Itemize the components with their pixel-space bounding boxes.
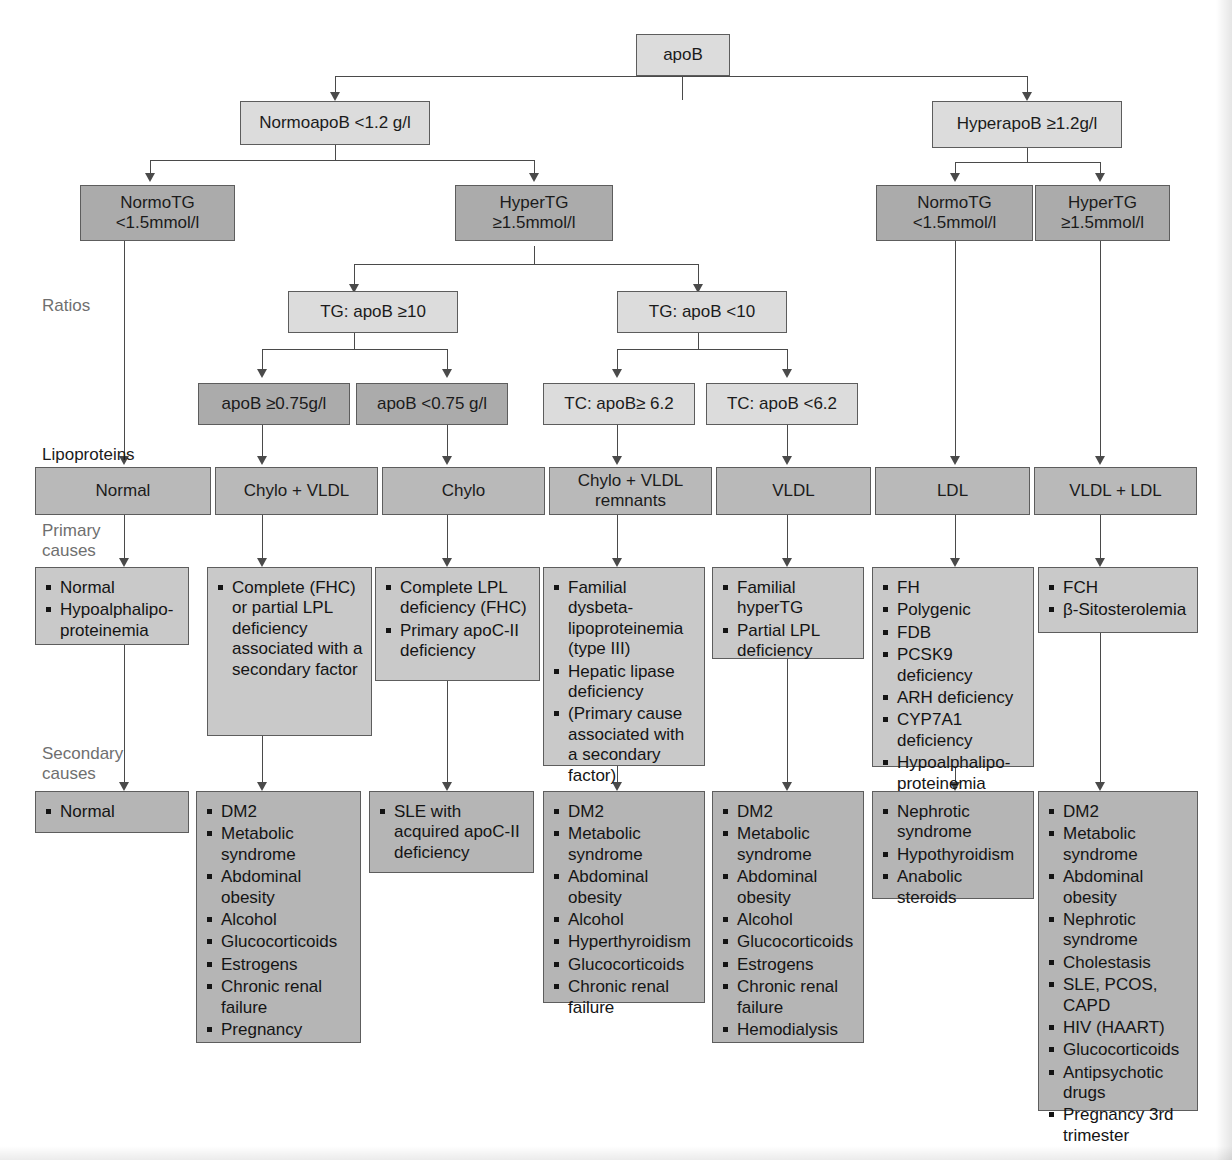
list-item: Metabolic syndrome bbox=[207, 824, 352, 865]
connector-ldl-to-primary bbox=[955, 515, 956, 560]
list-item: HIV (HAART) bbox=[1049, 1018, 1189, 1038]
node-tg-apob-lt10[interactable]: TG: apoB <10 bbox=[617, 291, 787, 333]
connector-remnants-to-primary bbox=[617, 515, 618, 560]
secondary-causes-vldl[interactable]: DM2Metabolic syndromeAbdominal obesityAl… bbox=[712, 791, 864, 1043]
primary-causes-vldl[interactable]: Familial hyperTGPartial LPL deficiency bbox=[712, 567, 864, 659]
arrow-to-lipo-remnants bbox=[612, 456, 622, 465]
list-item: Abdominal obesity bbox=[1049, 867, 1189, 908]
list-item: PCSK9 deficiency bbox=[883, 645, 1025, 686]
node-lipo-chylo-vldl-remnants[interactable]: Chylo + VLDL remnants bbox=[549, 467, 712, 515]
list-item: DM2 bbox=[207, 802, 352, 822]
arrow-to-hyperapob bbox=[1022, 92, 1032, 101]
primary-causes-chylo-vldl[interactable]: Complete (FHC) or partial LPL deficiency… bbox=[207, 567, 372, 736]
primary-list-5: Familial hyperTGPartial LPL deficiency bbox=[723, 578, 855, 662]
arrow-primary-7 bbox=[1095, 558, 1105, 567]
arrow-to-lipo-chylovldl bbox=[257, 456, 267, 465]
arrow-secondary-3 bbox=[442, 782, 452, 791]
list-item: Nephrotic syndrome bbox=[1049, 910, 1189, 951]
primary-list-1: NormalHypoalphalipo-proteinemia bbox=[46, 578, 180, 641]
node-normoapob[interactable]: NormoapoB <1.2 g/l bbox=[240, 101, 430, 145]
list-item: CYP7A1 deficiency bbox=[883, 710, 1025, 751]
secondary-causes-ldl[interactable]: Nephrotic syndromeHypothyroidismAnabolic… bbox=[872, 791, 1034, 899]
list-item: DM2 bbox=[554, 802, 696, 822]
connector-normotg1-to-normal bbox=[124, 241, 125, 458]
arrow-to-hypertg-1 bbox=[529, 173, 539, 182]
list-item: Chronic renal failure bbox=[207, 977, 352, 1018]
list-item: Pregnancy bbox=[207, 1020, 352, 1040]
node-hyperapob[interactable]: HyperapoB ≥1.2g/l bbox=[932, 101, 1122, 148]
node-normotg-left[interactable]: NormoTG <1.5mmol/l bbox=[80, 185, 235, 241]
primary-list-2: Complete (FHC) or partial LPL deficiency… bbox=[218, 578, 363, 680]
secondary-causes-vldl-ldl[interactable]: DM2Metabolic syndromeAbdominal obesityNe… bbox=[1038, 791, 1198, 1111]
secondary-causes-remnants[interactable]: DM2Metabolic syndromeAbdominal obesityAl… bbox=[543, 791, 705, 1003]
connector-primary1-to-secondary bbox=[124, 645, 125, 784]
secondary-list-2: DM2Metabolic syndromeAbdominal obesityAl… bbox=[207, 802, 352, 1040]
list-item: Glucocorticoids bbox=[723, 932, 855, 952]
connector-hypertg2-to-vldlldl bbox=[1100, 241, 1101, 458]
list-item: Abdominal obesity bbox=[554, 867, 696, 908]
node-apob-root[interactable]: apoB bbox=[636, 34, 730, 76]
primary-causes-vldl-ldl[interactable]: FCHβ-Sitosterolemia bbox=[1038, 567, 1198, 633]
list-item: Anabolic steroids bbox=[883, 867, 1025, 908]
connector-ge10-right bbox=[447, 349, 448, 371]
connector-primary2-to-secondary bbox=[262, 736, 263, 784]
node-tc-apob-ge-62[interactable]: TC: apoB≥ 6.2 bbox=[543, 383, 695, 425]
list-item: Glucocorticoids bbox=[1049, 1040, 1189, 1060]
row-label-ratios: Ratios bbox=[42, 296, 90, 316]
node-tg-apob-ge10[interactable]: TG: apoB ≥10 bbox=[288, 291, 458, 333]
connector-lt10-right bbox=[787, 349, 788, 371]
connector-lt10-stem bbox=[698, 333, 699, 349]
primary-list-6: FHPolygenicFDBPCSK9 deficiencyARH defici… bbox=[883, 578, 1025, 794]
node-lipo-chylo[interactable]: Chylo bbox=[382, 467, 545, 515]
connector-primary3-to-secondary bbox=[447, 681, 448, 784]
node-tc-apob-lt-62[interactable]: TC: apoB <6.2 bbox=[706, 383, 858, 425]
list-item: SLE, PCOS, CAPD bbox=[1049, 975, 1189, 1016]
secondary-list-3: SLE with acquired apoC-II deficiency bbox=[380, 802, 525, 863]
list-item: Familial hyperTG bbox=[723, 578, 855, 619]
connector-root-stem bbox=[682, 76, 683, 100]
list-item: Abdominal obesity bbox=[723, 867, 855, 908]
node-lipo-chylo-vldl[interactable]: Chylo + VLDL bbox=[215, 467, 378, 515]
node-hypertg-left[interactable]: HyperTG ≥1.5mmol/l bbox=[455, 185, 613, 241]
connector-tclt62-to-vldl bbox=[787, 425, 788, 458]
node-normotg-right[interactable]: NormoTG <1.5mmol/l bbox=[876, 185, 1033, 241]
connector-ge10-stem bbox=[354, 333, 355, 349]
arrow-to-lipo-ldl bbox=[950, 456, 960, 465]
node-hypertg-right[interactable]: HyperTG ≥1.5mmol/l bbox=[1035, 185, 1170, 241]
node-apob-ge-075[interactable]: apoB ≥0.75g/l bbox=[198, 383, 350, 425]
row-label-primary-causes: Primary causes bbox=[42, 521, 101, 562]
list-item: Estrogens bbox=[207, 955, 352, 975]
primary-causes-chylo[interactable]: Complete LPL deficiency (FHC)Primary apo… bbox=[375, 567, 540, 681]
node-lipo-vldl-ldl[interactable]: VLDL + LDL bbox=[1034, 467, 1197, 515]
list-item: Complete (FHC) or partial LPL deficiency… bbox=[218, 578, 363, 680]
arrow-primary-6 bbox=[950, 558, 960, 567]
primary-causes-remnants[interactable]: Familial dysbeta-lipoproteinemia (type I… bbox=[543, 567, 705, 766]
list-item: β-Sitosterolemia bbox=[1049, 600, 1189, 620]
secondary-causes-chylo[interactable]: SLE with acquired apoC-II deficiency bbox=[369, 791, 534, 873]
connector-primary5-to-secondary bbox=[787, 659, 788, 784]
secondary-causes-normal[interactable]: Normal bbox=[35, 791, 189, 833]
secondary-causes-chylo-vldl[interactable]: DM2Metabolic syndromeAbdominal obesityAl… bbox=[196, 791, 361, 1043]
list-item: Alcohol bbox=[207, 910, 352, 930]
list-item: Polygenic bbox=[883, 600, 1025, 620]
list-item: Hypoalphalipo-proteinemia bbox=[46, 600, 180, 641]
connector-vldlldl-to-primary bbox=[1100, 515, 1101, 560]
node-lipo-normal[interactable]: Normal bbox=[35, 467, 211, 515]
node-lipo-ldl[interactable]: LDL bbox=[875, 467, 1030, 515]
primary-causes-ldl[interactable]: FHPolygenicFDBPCSK9 deficiencyARH defici… bbox=[872, 567, 1034, 767]
list-item: Alcohol bbox=[723, 910, 855, 930]
arrow-to-hypertg-2 bbox=[1095, 173, 1105, 182]
list-item: Glucocorticoids bbox=[554, 955, 696, 975]
list-item: Nephrotic syndrome bbox=[883, 802, 1025, 843]
arrow-secondary-2 bbox=[257, 782, 267, 791]
primary-causes-normal[interactable]: NormalHypoalphalipo-proteinemia bbox=[35, 567, 189, 645]
node-lipo-vldl[interactable]: VLDL bbox=[716, 467, 871, 515]
connector-lt10-bus bbox=[617, 349, 787, 350]
row-label-lipoproteins: Lipoproteins bbox=[42, 445, 135, 465]
arrow-primary-1 bbox=[119, 558, 129, 567]
arrow-to-apob-lt075 bbox=[442, 369, 452, 378]
node-apob-lt-075[interactable]: apoB <0.75 g/l bbox=[356, 383, 508, 425]
connector-chylo-to-primary bbox=[447, 515, 448, 560]
arrow-primary-4 bbox=[612, 558, 622, 567]
connector-ge10-left bbox=[262, 349, 263, 371]
